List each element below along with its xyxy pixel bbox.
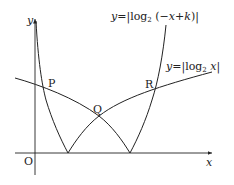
- shallow-curve-left-branch: [15, 78, 130, 153]
- function-graph: [0, 0, 234, 185]
- shallow-curve-equation: y=|log2 x|: [166, 61, 220, 74]
- point-q-label: Q: [93, 104, 102, 115]
- equation-argument: x|: [207, 60, 220, 73]
- y-axis-label: y: [27, 15, 33, 26]
- shallow-curve-right-branch: [68, 72, 212, 153]
- equation-text: =|log: [117, 10, 147, 23]
- origin-label: O: [24, 156, 33, 167]
- steep-curve-equation: y=|log2 (−x+k)|: [111, 11, 199, 24]
- x-axis-label: x: [206, 157, 212, 168]
- equation-argument: (−x+k)|: [152, 10, 199, 23]
- point-r-label: R: [145, 79, 153, 90]
- point-p-label: P: [48, 78, 55, 89]
- equation-text: =|log: [172, 60, 202, 73]
